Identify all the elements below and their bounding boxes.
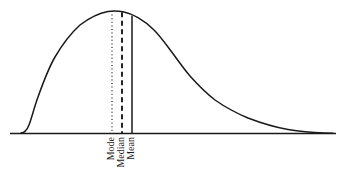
distribution-curve-figure bbox=[0, 0, 346, 184]
distribution-curve bbox=[21, 11, 333, 133]
figure-canvas: Mode Median Mean bbox=[0, 0, 346, 184]
mean-label: Mean bbox=[126, 137, 136, 160]
